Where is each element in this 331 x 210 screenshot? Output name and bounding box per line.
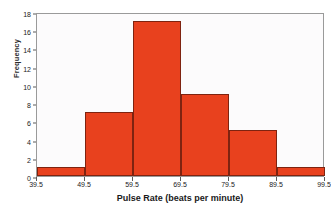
bars-layer xyxy=(37,14,323,176)
x-axis-tick-label: 79.5 xyxy=(221,181,235,188)
y-axis-tick-label: 4 xyxy=(27,138,31,145)
histogram-bar xyxy=(181,94,229,176)
histogram-bar xyxy=(85,112,133,176)
x-axis-tick-label: 69.5 xyxy=(173,181,187,188)
histogram-bar xyxy=(133,21,181,176)
histogram-bar xyxy=(277,167,325,176)
histogram-chart: Frequency 024681012141618 39.549.559.569… xyxy=(0,0,331,210)
histogram-bar xyxy=(229,130,277,176)
plot-inner xyxy=(37,14,323,176)
x-axis-tick-label: 49.5 xyxy=(77,181,91,188)
y-axis-tick-label: 16 xyxy=(23,29,31,36)
x-axis-tick-label: 89.5 xyxy=(269,181,283,188)
y-axis-tick-label: 10 xyxy=(23,83,31,90)
y-axis-tick-label: 6 xyxy=(27,120,31,127)
y-axis-tick-labels: 024681012141618 xyxy=(18,14,34,176)
y-axis-tick-label: 18 xyxy=(23,11,31,18)
histogram-bar xyxy=(37,167,85,176)
x-axis-tick-label: 99.5 xyxy=(317,181,331,188)
x-axis-tick-label: 39.5 xyxy=(29,181,43,188)
y-axis-tick-label: 8 xyxy=(27,102,31,109)
y-axis-tick-label: 14 xyxy=(23,47,31,54)
y-axis-tick-label: 12 xyxy=(23,65,31,72)
y-axis-tick-label: 2 xyxy=(27,156,31,163)
x-axis-tick-labels: 39.549.559.569.579.589.599.5 xyxy=(36,177,324,193)
x-axis-tick-label: 59.5 xyxy=(125,181,139,188)
plot-area xyxy=(36,13,324,177)
x-axis-title: Pulse Rate (beats per minute) xyxy=(36,193,324,203)
